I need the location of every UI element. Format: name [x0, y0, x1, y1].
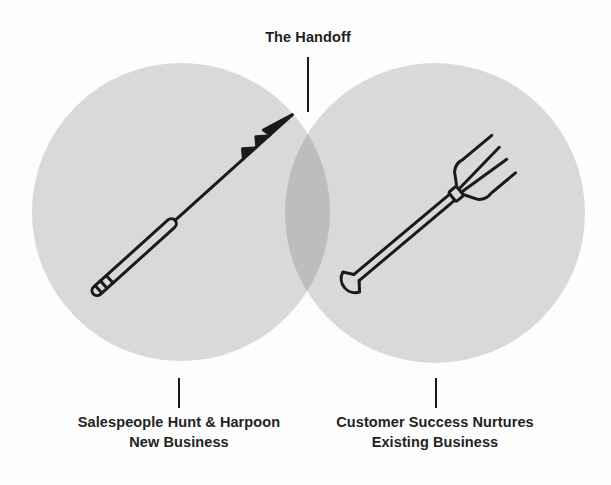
sales-label-line2: New Business — [29, 432, 329, 452]
customer-success-label-line2: Existing Business — [285, 432, 585, 452]
customer-success-label: Customer Success Nurtures Existing Busin… — [285, 412, 585, 452]
handoff-label-text: The Handoff — [208, 27, 408, 47]
sales-label-line1: Salespeople Hunt & Harpoon — [29, 412, 329, 432]
right-circle — [285, 63, 585, 363]
sales-label: Salespeople Hunt & Harpoon New Business — [29, 412, 329, 452]
customer-success-label-line1: Customer Success Nurtures — [285, 412, 585, 432]
handoff-label: The Handoff — [208, 27, 408, 47]
